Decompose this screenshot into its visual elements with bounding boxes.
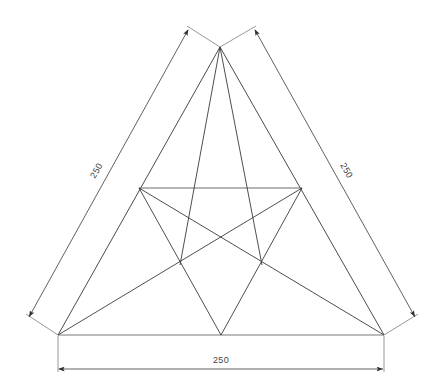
dim-left-extension-bottom [26,314,58,335]
dim-right-extension-top [220,26,256,47]
star-edge-right-to-bottom-center [221,188,302,335]
dim-left-line [29,30,188,317]
outer-triangle [58,47,384,335]
star-edge-left-to-bottom-center [139,188,221,335]
drawing-canvas: 250 250 250 [0,0,443,392]
star-edge-apex-to-left-node [180,47,220,265]
dim-left-label: 250 [88,161,105,180]
dimension-left-side: 250 [26,26,220,335]
dim-left-extension-top [187,26,220,47]
dim-right-label: 250 [338,161,355,180]
star-edge-apex-to-right-node [220,47,262,265]
triangle-left-edge [58,47,220,335]
dim-base-label: 250 [213,355,229,365]
dimension-base: 250 [58,336,384,372]
triangle-pentagram-svg: 250 250 250 [0,0,443,392]
dimension-right-side: 250 [220,26,418,335]
dim-right-line [255,30,415,317]
dim-right-extension-bottom [384,314,418,335]
inscribed-pentagram [58,47,384,335]
